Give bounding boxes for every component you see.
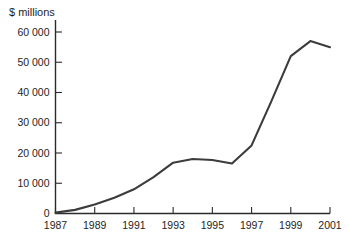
x-tick-label: 1997 <box>240 219 264 231</box>
y-tick-label: 0 <box>44 207 50 219</box>
y-tick-label: 60 000 <box>17 26 49 38</box>
axis-lines <box>56 20 331 214</box>
y-tick-label: 50 000 <box>17 56 49 68</box>
chart-plot-area: 010 00020 00030 00040 00050 00060 000 19… <box>0 0 349 242</box>
y-tick-label: 20 000 <box>17 147 49 159</box>
x-axis-tick-labels: 19871989199119931995199719992001 <box>44 219 342 231</box>
x-tick-label: 1995 <box>201 219 225 231</box>
y-tick-label: 10 000 <box>17 177 49 189</box>
x-tick-label: 1999 <box>279 219 303 231</box>
data-series-line <box>56 41 331 213</box>
x-tick-label: 2001 <box>318 219 342 231</box>
x-tick-label: 1991 <box>122 219 146 231</box>
line-chart: $ millions 010 00020 00030 00040 00050 0… <box>0 0 349 242</box>
x-tick-label: 1989 <box>83 219 107 231</box>
x-tick-label: 1987 <box>44 219 68 231</box>
y-tick-label: 40 000 <box>17 86 49 98</box>
y-axis-tick-labels: 010 00020 00030 00040 00050 00060 000 <box>17 26 49 220</box>
y-tick-label: 30 000 <box>17 116 49 128</box>
x-tick-label: 1993 <box>161 219 185 231</box>
